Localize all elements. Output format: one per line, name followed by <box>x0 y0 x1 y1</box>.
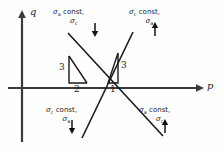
quadrant-label-top-left: σa const, σc <box>53 8 84 26</box>
p-axis-label: p <box>207 80 213 91</box>
sigma-subscript: c <box>75 20 78 26</box>
right-triangle-horizontal-label: 1 <box>110 84 116 94</box>
sigma-subscript: a <box>150 20 153 26</box>
sigma-c-constant-path-line <box>82 32 133 138</box>
quadrant-label-bottom-left: σc const, σa <box>46 106 77 124</box>
quadrant-label-top-left-line1: σa const, <box>53 8 84 17</box>
left-slope-triangle <box>69 56 87 83</box>
stress-path-figure: q p σa const, σc σc const, σa σc const, … <box>0 0 224 152</box>
quadrant-label-top-right-line2: σa <box>129 17 160 26</box>
left-triangle-horizontal-label: 2 <box>74 84 80 94</box>
quadrant-label-bottom-left-line1: σc const, <box>46 106 77 115</box>
q-axis <box>18 10 26 142</box>
quadrant-label-bottom-right: σa const, σc <box>139 106 170 124</box>
sigma-subscript: a <box>67 118 70 124</box>
quadrant-label-bottom-right-line2: σc <box>139 115 170 124</box>
quadrant-label-top-left-line2: σc <box>53 17 84 26</box>
left-triangle-vertical-label: 3 <box>59 62 65 72</box>
quadrant-label-bottom-right-line1: σa const, <box>139 106 170 115</box>
quadrant-label-top-right-line1: σc const, <box>129 8 160 17</box>
figure-canvas <box>0 0 224 152</box>
const-text: const, <box>147 106 170 114</box>
sigma-c-down-arrow-top-left <box>92 23 98 37</box>
quadrant-label-top-right: σc const, σa <box>129 8 160 26</box>
sigma-subscript: c <box>161 118 164 124</box>
const-text: const, <box>137 8 160 16</box>
q-axis-arrowhead <box>18 10 26 18</box>
const-text: const, <box>61 8 84 16</box>
p-axis-arrowhead <box>196 84 204 92</box>
quadrant-label-bottom-left-line2: σa <box>46 115 77 124</box>
q-axis-label: q <box>30 6 36 17</box>
const-text: const, <box>54 106 77 114</box>
right-triangle-vertical-label: 3 <box>121 60 127 70</box>
